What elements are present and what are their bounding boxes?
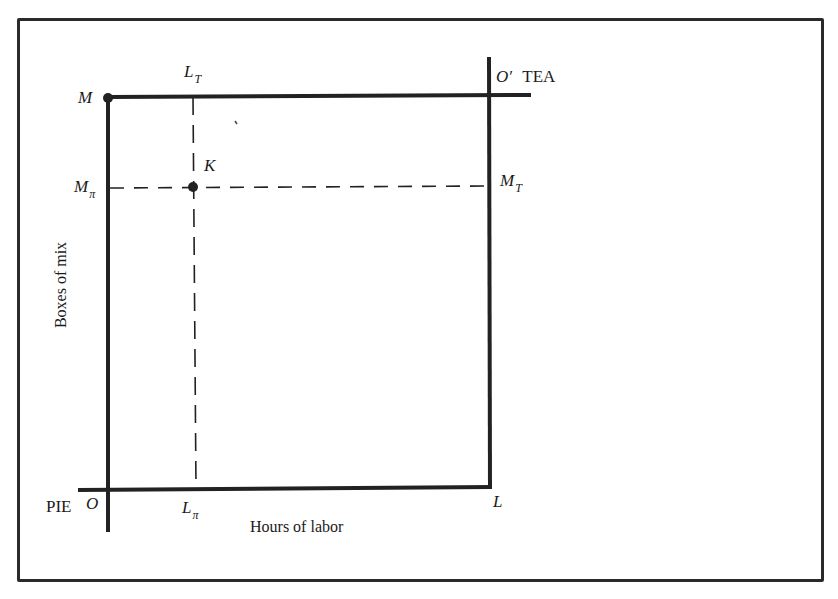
- label-l-pi-sub: π: [192, 508, 198, 522]
- label-l-top-base: L: [184, 62, 193, 81]
- label-tea: TEA: [522, 67, 555, 86]
- dashed-horizontal-guide: [110, 186, 488, 188]
- box-top-edge: [108, 95, 531, 97]
- label-l: L: [493, 493, 502, 510]
- label-k: K: [204, 157, 215, 174]
- label-m-pi-sub: π: [89, 187, 95, 201]
- box-bottom-edge: [78, 487, 492, 490]
- label-m-t-base: M: [500, 171, 514, 190]
- point-k-dot: [188, 182, 198, 192]
- label-o: O: [86, 495, 98, 512]
- label-l-top: LT: [184, 63, 201, 80]
- x-axis-label: Hours of labor: [250, 519, 343, 535]
- label-m-pi: Mπ: [74, 178, 95, 195]
- label-l-top-sub: T: [194, 72, 201, 86]
- dashed-vertical-guide: [193, 97, 196, 488]
- label-l-pi-base: L: [182, 498, 191, 517]
- label-o-prime: O′ TEA: [496, 68, 555, 85]
- label-m: M: [78, 89, 92, 106]
- label-m-pi-base: M: [74, 177, 88, 196]
- point-m-dot: [103, 93, 113, 103]
- box-right-edge: [489, 57, 490, 488]
- label-l-pi: Lπ: [182, 499, 198, 516]
- label-m-t-sub: T: [515, 181, 522, 195]
- y-axis-label: Boxes of mix: [52, 242, 70, 328]
- label-m-t: MT: [500, 172, 522, 189]
- stray-mark: [235, 121, 237, 124]
- label-pie: PIE: [46, 498, 72, 515]
- edgeworth-box-diagram: [0, 0, 838, 599]
- label-o-prime-text: O′: [496, 67, 512, 86]
